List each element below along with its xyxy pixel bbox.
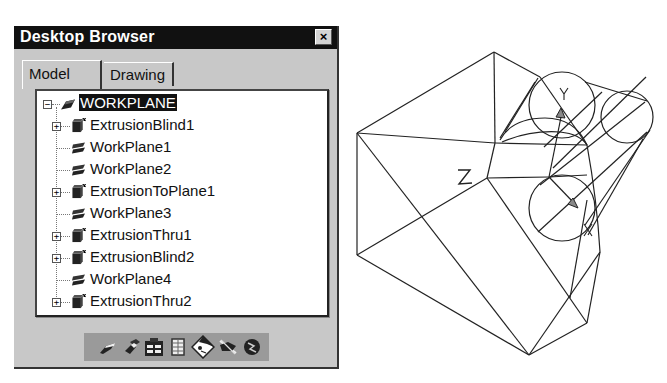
workplane-icon bbox=[71, 163, 87, 178]
extrusion-icon bbox=[71, 250, 87, 265]
expand-toggle[interactable]: + bbox=[52, 254, 61, 263]
y-axis-label-icon bbox=[560, 88, 568, 100]
table-icon[interactable] bbox=[168, 337, 188, 357]
tree-connector bbox=[61, 192, 70, 193]
folder-icon[interactable] bbox=[144, 337, 164, 357]
sketch-icon[interactable] bbox=[218, 337, 238, 357]
extrusion-icon bbox=[71, 294, 87, 309]
close-icon: × bbox=[320, 29, 328, 44]
tree-node-label: ExtrusionThru2 bbox=[89, 292, 193, 309]
collapse-toggle[interactable]: − bbox=[43, 100, 52, 109]
workplane-icon bbox=[71, 141, 87, 156]
tree-connector bbox=[57, 280, 70, 281]
tree-connector bbox=[61, 258, 70, 259]
render-icon[interactable] bbox=[242, 337, 262, 357]
workplane-icon bbox=[71, 207, 87, 222]
extrusion-icon bbox=[71, 184, 87, 199]
model-tree[interactable]: − WORKPLANE + ExtrusionBlind1 WorkPlane1… bbox=[35, 89, 329, 317]
workplane-root-icon bbox=[60, 97, 76, 112]
workplane-icon bbox=[71, 273, 87, 288]
tree-node-label: WORKPLANE bbox=[79, 94, 177, 111]
tree-connector-vertical bbox=[56, 107, 57, 307]
tab-model[interactable]: Model bbox=[22, 60, 102, 89]
y-axis-arrow-icon bbox=[556, 108, 565, 118]
browser-toolbar bbox=[84, 333, 269, 361]
tree-connector bbox=[61, 126, 70, 127]
expand-toggle[interactable]: + bbox=[52, 298, 61, 307]
expand-toggle[interactable]: + bbox=[52, 232, 61, 241]
tree-connector bbox=[52, 104, 60, 105]
tree-node-label: ExtrusionBlind1 bbox=[89, 116, 195, 133]
tree-connector bbox=[61, 236, 70, 237]
tree-connector bbox=[57, 148, 70, 149]
wireframe-geometry bbox=[357, 52, 653, 355]
close-button[interactable]: × bbox=[315, 29, 332, 45]
tree-node-label: ExtrusionBlind2 bbox=[89, 248, 195, 265]
extrusion-icon bbox=[71, 228, 87, 243]
view-diamond-icon[interactable] bbox=[191, 335, 215, 359]
part-icon[interactable] bbox=[98, 337, 118, 357]
window-title: Desktop Browser bbox=[20, 28, 155, 46]
desktop-browser-panel: Desktop Browser × Model Drawing − WORKPL… bbox=[14, 26, 339, 369]
tree-connector bbox=[57, 170, 70, 171]
x-axis-arrow-icon bbox=[568, 198, 578, 208]
assembly-icon[interactable] bbox=[122, 337, 142, 357]
tree-connector bbox=[61, 302, 70, 303]
tree-node-label: ExtrusionToPlane1 bbox=[89, 182, 216, 199]
tab-drawing-label: Drawing bbox=[110, 66, 165, 83]
title-bar[interactable]: Desktop Browser × bbox=[14, 26, 337, 49]
tree-node-label: WorkPlane1 bbox=[89, 138, 172, 155]
tree-node-label: WorkPlane4 bbox=[89, 270, 172, 287]
tab-model-label: Model bbox=[29, 65, 70, 82]
z-axis-label-icon bbox=[458, 170, 472, 184]
extrusion-icon bbox=[71, 118, 87, 133]
tab-drawing[interactable]: Drawing bbox=[104, 62, 174, 86]
tree-connector bbox=[57, 214, 70, 215]
tree-node-label: WorkPlane3 bbox=[89, 204, 172, 221]
tree-node-label: ExtrusionThru1 bbox=[89, 226, 193, 243]
expand-toggle[interactable]: + bbox=[52, 122, 61, 131]
model-viewport[interactable] bbox=[340, 30, 667, 380]
expand-toggle[interactable]: + bbox=[52, 188, 61, 197]
tree-node-label: WorkPlane2 bbox=[89, 160, 172, 177]
